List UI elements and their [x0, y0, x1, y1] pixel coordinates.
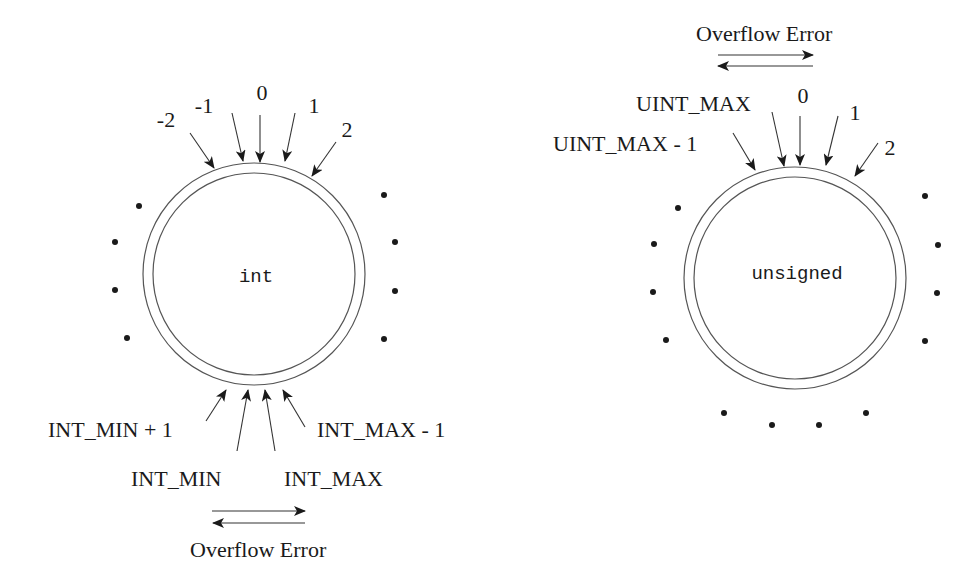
label-0: 0	[798, 83, 809, 108]
arrow-icon	[190, 133, 214, 168]
int-overflow-arrows	[212, 511, 305, 523]
label-int-min: INT_MIN	[131, 466, 222, 491]
arrow-icon	[237, 390, 248, 451]
label-uint-max-minus-1: UINT_MAX - 1	[553, 131, 697, 156]
arrow-icon	[265, 390, 275, 451]
label-uint-max: UINT_MAX	[636, 91, 751, 116]
arrow-icon	[283, 390, 305, 427]
unsigned-ring-diagram: Overflow Error unsigned UINT_MAX - 1 UIN…	[553, 21, 941, 428]
integer-overflow-diagram: int -2 -1 0 1 2	[0, 0, 978, 585]
label-1: 1	[309, 93, 320, 118]
arrow-icon	[206, 390, 226, 421]
arrow-icon	[733, 133, 755, 170]
label-0: 0	[257, 80, 268, 105]
label-int-max: INT_MAX	[284, 466, 383, 491]
arrow-icon	[772, 112, 784, 166]
label-int-max-minus-1: INT_MAX - 1	[317, 417, 445, 442]
arrow-icon	[826, 116, 838, 165]
unsigned-ellipsis-dots	[650, 193, 941, 428]
arrow-icon	[312, 142, 336, 176]
label-minus-2: -2	[157, 107, 175, 132]
unsigned-overflow-label: Overflow Error	[696, 21, 833, 46]
label-2: 2	[342, 117, 353, 142]
label-int-min-plus-1: INT_MIN + 1	[48, 417, 173, 442]
arrow-icon	[285, 113, 295, 161]
unsigned-type-label: unsigned	[751, 263, 842, 285]
int-top-arrows	[190, 113, 336, 176]
label-1: 1	[850, 100, 861, 125]
label-minus-1: -1	[195, 93, 213, 118]
int-overflow-label: Overflow Error	[190, 537, 327, 562]
arrow-icon	[232, 113, 243, 161]
arrow-icon	[855, 143, 878, 176]
unsigned-overflow-arrows	[718, 55, 813, 66]
int-bottom-arrows	[206, 390, 305, 451]
label-2: 2	[885, 135, 896, 160]
int-ring-diagram: int -2 -1 0 1 2	[48, 80, 445, 562]
int-type-label: int	[239, 266, 273, 288]
